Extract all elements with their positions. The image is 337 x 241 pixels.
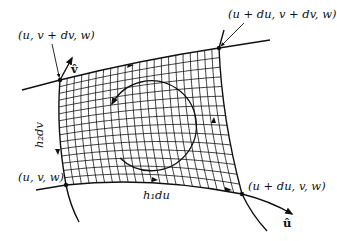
label-u-hat: û <box>283 218 291 230</box>
label-left-edge-length: h₂dv <box>34 122 46 148</box>
label-top-left-corner: (u, v + dv, w) <box>18 30 95 42</box>
label-bottom-left-corner: (u, v, w) <box>18 172 64 184</box>
corner-points <box>58 46 244 196</box>
label-top-right-corner: (u + du, v + dv, w) <box>228 9 337 21</box>
label-v-hat: v̂ <box>71 64 78 76</box>
label-bottom-edge-length: h₁du <box>143 190 170 202</box>
circulation-loop <box>112 81 196 171</box>
label-bottom-right-corner: (u + du, v, w) <box>248 181 326 193</box>
